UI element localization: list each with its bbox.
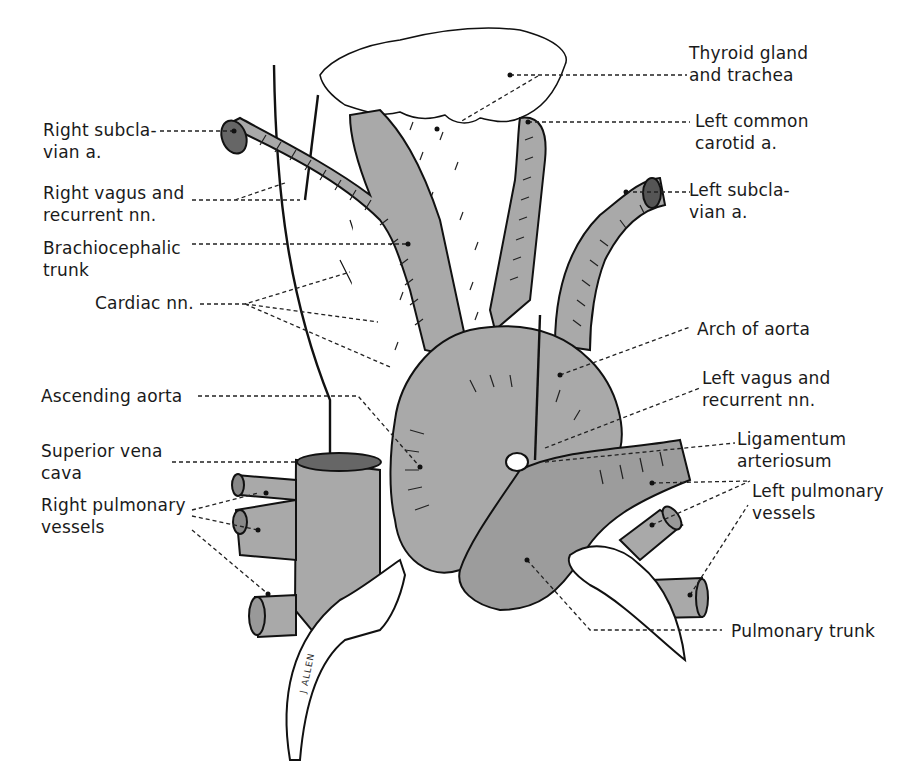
label-left-subclavian-artery: Left subcla- vian a. <box>689 179 790 223</box>
label-right-vagus-recurrent-nerves: Right vagus and recurrent nn. <box>43 182 184 226</box>
rpv-middle-opening <box>233 510 247 534</box>
label-left-vagus-recurrent-nerves: Left vagus and recurrent nn. <box>702 367 830 411</box>
leader-right-vagus <box>192 183 300 200</box>
right-pulmonary-vessel-upper <box>236 475 296 500</box>
lpv-lower-opening <box>696 579 708 617</box>
label-brachiocephalic-trunk: Brachiocephalic trunk <box>43 237 181 281</box>
rpv-upper-opening <box>232 474 244 496</box>
rpv-lower-opening <box>249 597 265 635</box>
label-right-subclavian-artery: Right subcla- vian a. <box>43 119 157 163</box>
anatomy-figure: Right subcla- vian a. Right vagus and re… <box>0 0 919 774</box>
left-subclavian-opening <box>643 178 661 208</box>
thyroid-gland <box>320 28 566 123</box>
label-superior-vena-cava: Superior vena cava <box>41 440 163 484</box>
label-ligamentum-arteriosum: Ligamentum arteriosum <box>737 428 846 472</box>
label-left-pulmonary-vessels: Left pulmonary vessels <box>752 480 884 524</box>
ligamentum-arteriosum <box>506 453 528 471</box>
label-thyroid-gland-trachea: Thyroid gland and trachea <box>689 42 808 86</box>
label-left-common-carotid-artery: Left common carotid a. <box>695 110 809 154</box>
svc-opening <box>297 453 381 471</box>
label-arch-of-aorta: Arch of aorta <box>697 318 810 340</box>
left-lung-edge <box>569 546 685 660</box>
label-cardiac-nerves: Cardiac nn. <box>95 292 194 314</box>
label-right-pulmonary-vessels: Right pulmonary vessels <box>41 494 186 538</box>
left-common-carotid-artery <box>490 118 546 330</box>
label-ascending-aorta: Ascending aorta <box>41 385 182 407</box>
right-vagus-nerve <box>274 65 330 460</box>
label-pulmonary-trunk: Pulmonary trunk <box>731 620 875 642</box>
right-vagus-branch <box>305 95 318 200</box>
